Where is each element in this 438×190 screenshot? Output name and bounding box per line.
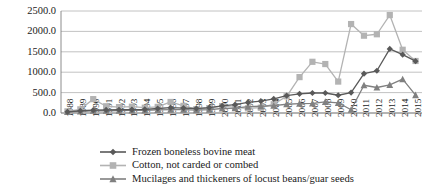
legend-item-label: Mucilages and thickeners of locust beans… — [132, 173, 354, 184]
data-point-marker — [387, 12, 393, 18]
data-point-marker — [110, 162, 117, 169]
data-point-marker — [348, 21, 354, 27]
x-axis-tick-label: 2013 — [387, 98, 397, 117]
data-point-marker — [167, 99, 173, 105]
data-point-marker — [309, 59, 315, 65]
data-point-marker — [386, 81, 393, 88]
data-point-marker — [399, 76, 406, 83]
data-point-marker — [374, 31, 380, 37]
x-axis-tick-label: 2006 — [297, 98, 307, 117]
y-axis-tick-label: 2500.0 — [27, 5, 56, 16]
legend-item[interactable]: Cotton, not carded or combed — [100, 159, 259, 170]
data-point-marker — [322, 61, 328, 67]
x-axis-tick-label: 2012 — [374, 98, 384, 117]
x-axis-tick-label: 2009 — [336, 98, 346, 117]
x-axis-tick-label: 2010 — [349, 98, 359, 117]
data-point-marker — [309, 90, 315, 96]
legend-item-label: Cotton, not carded or combed — [132, 159, 259, 170]
data-point-marker — [296, 91, 302, 97]
legend-item-label: Frozen boneless bovine meat — [132, 146, 255, 157]
gridlines-group — [61, 11, 422, 113]
series-line — [67, 15, 415, 111]
data-point-marker — [110, 149, 117, 156]
x-axis-tick-label: 2005 — [284, 98, 294, 117]
data-point-marker — [296, 74, 302, 80]
x-axis-tick-label: 2015 — [413, 98, 423, 117]
plot-axes-group — [61, 11, 422, 113]
data-point-marker — [374, 68, 380, 74]
legend-item[interactable]: Mucilages and thickeners of locust beans… — [100, 173, 354, 184]
y-axis-tick-label: 1500.0 — [27, 46, 56, 57]
data-point-marker — [335, 78, 341, 84]
y-axis-tick-label: 2000.0 — [27, 25, 56, 36]
x-axis-tick-label: 2014 — [400, 98, 410, 117]
x-axis-tick-label: 2007 — [310, 98, 320, 117]
data-point-marker — [322, 90, 328, 96]
data-point-marker — [335, 92, 341, 98]
legend-item[interactable]: Frozen boneless bovine meat — [100, 146, 255, 157]
y-axis-tick-label: 500.0 — [32, 87, 56, 98]
y-axis-tick-label: 1000.0 — [27, 66, 56, 77]
line-chart: 0.0500.01000.01500.02000.02500.0 1988198… — [0, 0, 438, 190]
data-point-marker — [361, 33, 367, 39]
y-axis-tick-label: 0.0 — [43, 107, 56, 118]
x-axis-tick-label: 2011 — [361, 99, 371, 117]
data-point-marker — [90, 96, 96, 102]
y-axis-labels-group: 0.0500.01000.01500.02000.02500.0 — [27, 5, 56, 118]
legend-group: Frozen boneless bovine meatCotton, not c… — [100, 146, 354, 184]
data-point-marker — [387, 46, 393, 52]
chart-canvas: 0.0500.01000.01500.02000.02500.0 1988198… — [0, 0, 438, 190]
